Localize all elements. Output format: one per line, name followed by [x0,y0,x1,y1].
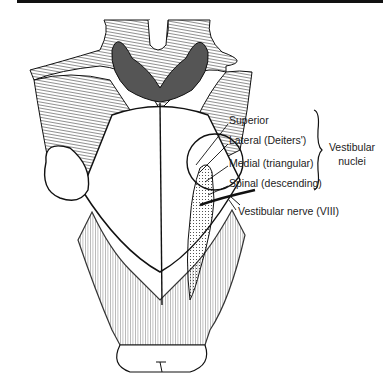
group-label-line1: Vestibular [322,140,382,154]
group-label-line2: nuclei [322,154,382,168]
label-medial: Medial (triangular) [229,157,314,169]
brainstem-illustration [0,0,383,377]
label-vestibular-nerve: Vestibular nerve (VIII) [238,205,339,217]
label-lateral: Lateral (Deiters') [229,134,306,146]
label-superior: Superior [229,114,269,126]
group-label: Vestibular nuclei [322,140,382,168]
label-spinal: Spinal (descending) [229,177,322,189]
